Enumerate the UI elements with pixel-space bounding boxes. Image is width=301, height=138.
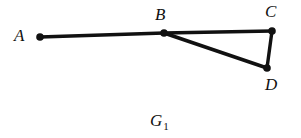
vertex-A [36,33,44,41]
vertex-D [263,64,271,72]
figure-caption: G1 [150,112,169,132]
vertex-label-C: C [265,3,276,20]
edge-B-C [164,31,272,33]
edges-group [40,31,272,68]
edge-B-D [164,33,267,68]
vertex-label-B: B [155,6,165,23]
edge-C-D [267,31,272,68]
vertex-label-A: A [14,27,24,44]
figure-caption-subscript: 1 [162,120,169,132]
vertex-label-D: D [265,76,277,93]
vertex-B [160,29,168,37]
graph-figure: A B C D G1 [0,0,301,138]
vertex-C [268,27,276,35]
figure-caption-main: G [150,111,162,130]
edge-A-B [40,33,164,37]
